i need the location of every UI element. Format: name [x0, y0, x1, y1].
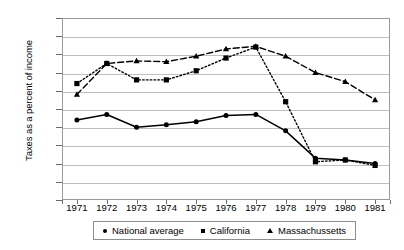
x-axis-tick-mark — [286, 200, 287, 204]
data-point-marker — [134, 125, 139, 130]
x-axis-tick-mark — [137, 200, 138, 204]
x-axis-tick-mark — [256, 200, 257, 204]
chart-legend: National averageCaliforniaMassachussetts — [93, 221, 356, 240]
series-line — [77, 46, 375, 100]
square-icon — [201, 229, 205, 233]
series-line — [77, 47, 375, 165]
y-axis-tick-mark — [56, 18, 62, 19]
y-axis-tick-mark — [56, 164, 62, 165]
data-point-marker — [283, 53, 289, 59]
y-axis-tick-mark — [56, 109, 62, 110]
triangle-icon — [267, 228, 273, 233]
x-axis-tick-mark — [77, 200, 78, 204]
x-axis-tick-mark — [196, 200, 197, 204]
x-axis-tick-mark — [375, 200, 376, 204]
x-axis-tick-mark — [345, 200, 346, 204]
data-point-marker — [194, 119, 199, 124]
y-axis-tick-mark — [56, 36, 62, 37]
data-point-marker — [164, 77, 169, 82]
y-axis-tick-mark — [56, 127, 62, 128]
x-axis-tick-mark — [107, 200, 108, 204]
x-axis-tick-mark — [62, 200, 63, 204]
data-point-marker — [74, 81, 79, 86]
series-national-average — [74, 112, 377, 166]
data-point-marker — [343, 157, 348, 162]
series-line — [77, 114, 375, 163]
x-axis-tick-label: 1981 — [355, 203, 395, 213]
data-point-marker — [283, 99, 288, 104]
data-point-marker — [134, 77, 139, 82]
data-point-marker — [372, 163, 377, 168]
y-axis-title: Taxes as a percent of income — [23, 11, 34, 191]
x-axis-tick-mark — [166, 200, 167, 204]
tax-burden-line-chart: Taxes as a percent of income 13%12%12%11… — [0, 0, 404, 250]
y-axis-tick-mark — [56, 145, 62, 146]
legend-item-massachussetts: Massachussetts — [267, 225, 346, 236]
circle-icon — [103, 229, 107, 233]
data-point-marker — [283, 128, 288, 133]
x-axis-tick-mark — [226, 200, 227, 204]
data-point-marker — [223, 55, 228, 60]
data-point-marker — [313, 159, 318, 164]
series-massachussetts — [74, 43, 378, 102]
legend-item-national-average: National average — [103, 225, 184, 236]
y-axis-tick-mark — [56, 91, 62, 92]
series-layer — [62, 18, 390, 200]
y-axis-tick-mark — [56, 54, 62, 55]
y-axis-tick-mark — [56, 73, 62, 74]
data-point-marker — [372, 97, 378, 103]
data-point-marker — [224, 113, 229, 118]
y-axis-tick-mark — [56, 182, 62, 183]
y-axis-tick-mark — [56, 200, 62, 201]
x-axis-tick-mark — [390, 200, 391, 204]
legend-item-california: California — [201, 225, 250, 236]
legend-label: California — [210, 225, 250, 236]
x-axis-tick-mark — [315, 200, 316, 204]
data-point-marker — [104, 112, 109, 117]
legend-label: National average — [112, 225, 184, 236]
data-point-marker — [164, 122, 169, 127]
data-point-marker — [194, 68, 199, 73]
legend-label: Massachussetts — [278, 225, 346, 236]
data-point-marker — [253, 112, 258, 117]
data-point-marker — [74, 117, 79, 122]
